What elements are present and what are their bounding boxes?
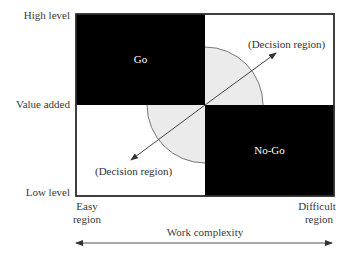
decision-matrix-diagram: High level Value added Low level Go No-G… xyxy=(0,0,349,260)
x-axis-difficult-label-line2: region xyxy=(300,213,338,226)
go-label: Go xyxy=(76,53,205,66)
y-axis-title: Value added xyxy=(0,98,70,111)
no-go-label: No-Go xyxy=(205,144,334,157)
x-axis-difficult-label-line1: Difficult xyxy=(296,200,338,213)
x-axis-easy-label-line2: region xyxy=(70,213,104,226)
decision-region-upper-label: (Decision region) xyxy=(248,38,325,51)
x-axis-title: Work complexity xyxy=(150,226,260,239)
y-axis-low-label: Low level xyxy=(0,186,70,199)
x-axis-easy-label-line1: Easy xyxy=(72,200,102,213)
y-axis-high-label: High level xyxy=(0,9,70,22)
decision-region-lower-label: (Decision region) xyxy=(95,165,172,178)
